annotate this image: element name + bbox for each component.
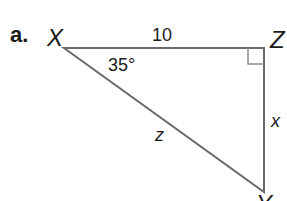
triangle-xyz [64,48,264,192]
side-zy-label: x [271,112,280,130]
vertex-y-label: Y [256,192,272,201]
side-xy-label: z [155,126,164,144]
vertex-x-label: X [47,26,63,50]
problem-part-label: a. [10,24,28,46]
side-xz-length: 10 [152,26,172,44]
right-angle-marker [248,48,264,64]
right-triangle-figure [0,0,287,201]
angle-x-measure: 35° [108,56,135,74]
vertex-z-label: Z [270,28,285,52]
